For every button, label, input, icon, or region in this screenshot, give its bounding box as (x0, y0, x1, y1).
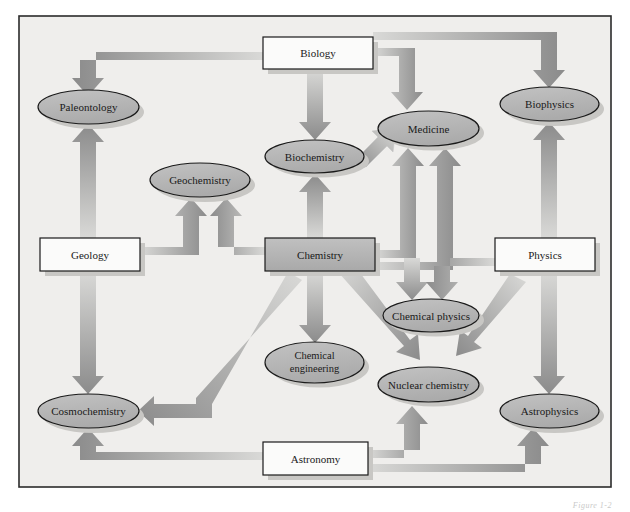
node-physics[interactable]: Physics (495, 238, 595, 271)
node-biology-label: Biology (300, 47, 336, 59)
node-chemical-engineering[interactable]: Chemical engineering (265, 342, 364, 383)
node-astrophysics-label: Astrophysics (521, 405, 578, 417)
node-biophysics-label: Biophysics (525, 98, 574, 110)
discipline-relationship-diagram: Biology Geology Chemistry Physics Astron… (0, 0, 630, 512)
node-paleontology[interactable]: Paleontology (38, 90, 139, 124)
node-astronomy-label: Astronomy (291, 453, 341, 465)
node-medicine[interactable]: Medicine (378, 111, 479, 146)
node-astronomy[interactable]: Astronomy (263, 442, 368, 475)
node-biology[interactable]: Biology (263, 37, 373, 69)
figure-caption: Figure 1-2 (573, 501, 612, 510)
node-cosmochemistry-label: Cosmochemistry (51, 405, 126, 417)
node-geology[interactable]: Geology (40, 238, 140, 271)
node-chemistry[interactable]: Chemistry (265, 238, 375, 271)
node-nuclear-chemistry[interactable]: Nuclear chemistry (378, 367, 479, 402)
figure-canvas: Biology Geology Chemistry Physics Astron… (0, 0, 630, 512)
node-chemical-physics-label: Chemical physics (392, 310, 470, 322)
node-geochemistry-label: Geochemistry (169, 174, 231, 186)
node-biochemistry-label: Biochemistry (285, 151, 345, 163)
node-nuclear-chemistry-label: Nuclear chemistry (388, 379, 469, 391)
node-biophysics[interactable]: Biophysics (500, 87, 599, 121)
node-geochemistry[interactable]: Geochemistry (150, 163, 250, 197)
node-geology-label: Geology (71, 249, 109, 261)
node-biochemistry[interactable]: Biochemistry (265, 140, 364, 173)
node-cosmochemistry[interactable]: Cosmochemistry (38, 394, 139, 428)
node-paleontology-label: Paleontology (59, 101, 118, 113)
node-chemical-engineering-label-line1: Chemical (294, 350, 334, 361)
node-chemical-physics[interactable]: Chemical physics (383, 299, 479, 332)
node-chemical-engineering-label-line2: engineering (290, 363, 340, 374)
node-medicine-label: Medicine (408, 123, 450, 135)
node-chemistry-label: Chemistry (297, 249, 343, 261)
node-astrophysics[interactable]: Astrophysics (500, 394, 599, 428)
node-physics-label: Physics (528, 249, 562, 261)
